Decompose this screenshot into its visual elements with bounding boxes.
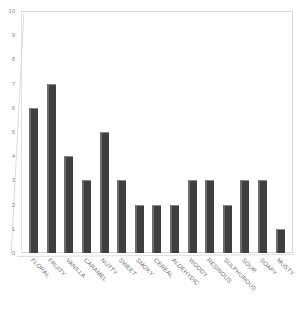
x-axis-tick: WOODY	[183, 256, 201, 308]
bar[interactable]	[100, 132, 109, 253]
bar-slot	[131, 12, 149, 253]
bar[interactable]	[29, 108, 38, 253]
bar-slot	[95, 12, 113, 253]
x-axis-tick: FLORAL	[25, 256, 43, 308]
bar[interactable]	[240, 180, 249, 253]
bar-slot	[43, 12, 61, 253]
bar[interactable]	[205, 180, 214, 253]
bar-slot	[219, 12, 237, 253]
x-axis-tick-label: MUSTY	[276, 257, 296, 277]
x-axis-tick: NUTTY	[95, 256, 113, 308]
x-axis-tick: RESINOUS	[201, 256, 219, 308]
y-axis: 109876543210	[0, 11, 18, 253]
y-axis-tick-label: 1	[12, 226, 15, 232]
bar-chart-screenshot: 109876543210 FLORALFRUITYVANILLACARAMELN…	[0, 0, 299, 309]
chart-title	[0, 0, 299, 1]
bar-slot	[254, 12, 272, 253]
y-axis-tick-label: 6	[12, 105, 15, 111]
x-axis-tick: SOUR	[236, 256, 254, 308]
y-axis-tick-label: 3	[12, 177, 15, 183]
bar[interactable]	[188, 180, 197, 253]
bar-slot	[201, 12, 219, 253]
x-axis: FLORALFRUITYVANILLACARAMELNUTTYSWEETSMOK…	[23, 256, 291, 308]
bar-slot	[25, 12, 43, 253]
y-axis-tick-label: 0	[12, 250, 15, 256]
x-axis-tick: SWEET	[113, 256, 131, 308]
bar[interactable]	[170, 205, 179, 253]
x-axis-tick: MUSTY	[271, 256, 289, 308]
x-axis-tick: FRUITY	[43, 256, 61, 308]
bar-slot	[271, 12, 289, 253]
bar-slot	[78, 12, 96, 253]
bar[interactable]	[276, 229, 285, 253]
y-axis-tick-label: 2	[12, 202, 15, 208]
bar[interactable]	[135, 205, 144, 253]
bar[interactable]	[223, 205, 232, 253]
bar-series	[23, 12, 291, 253]
bar-slot	[166, 12, 184, 253]
x-axis-tick: CARAMEL	[78, 256, 96, 308]
y-axis-tick-label: 5	[12, 129, 15, 135]
bar[interactable]	[64, 156, 73, 253]
bar-slot	[183, 12, 201, 253]
x-axis-tick: ALDEHYDIC	[166, 256, 184, 308]
y-axis-tick-label: 8	[12, 56, 15, 62]
y-axis-tick-label: 9	[12, 32, 15, 38]
x-axis-tick: SOAPY	[254, 256, 272, 308]
x-axis-tick: CEREAL	[148, 256, 166, 308]
y-axis-tick-label: 4	[12, 153, 15, 159]
x-axis-tick: SMOKY	[131, 256, 149, 308]
x-axis-tick: SULPHUROUS	[219, 256, 237, 308]
bar[interactable]	[117, 180, 126, 253]
x-axis-tick: VANILLA	[60, 256, 78, 308]
bar[interactable]	[47, 84, 56, 253]
bar-slot	[113, 12, 131, 253]
y-axis-tick-label: 10	[8, 8, 15, 14]
bar-slot	[148, 12, 166, 253]
bar-slot	[60, 12, 78, 253]
bar[interactable]	[152, 205, 161, 253]
bar[interactable]	[258, 180, 267, 253]
bar[interactable]	[82, 180, 91, 253]
y-axis-tick-label: 7	[12, 81, 15, 87]
bar-slot	[236, 12, 254, 253]
